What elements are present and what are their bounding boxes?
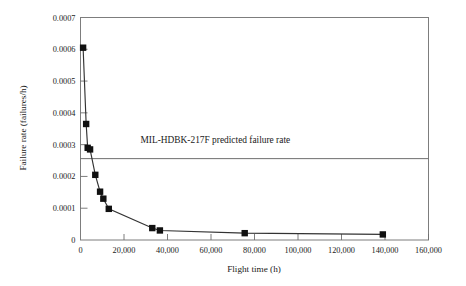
data-point-marker bbox=[83, 121, 89, 127]
data-point-marker bbox=[380, 231, 386, 237]
y-axis-tick-labels: 00.00010.00020.00030.00040.00050.00060.0… bbox=[53, 14, 77, 246]
y-tick-label: 0.0003 bbox=[53, 141, 76, 150]
y-tick-label: 0.0005 bbox=[53, 77, 76, 86]
data-point-marker bbox=[97, 188, 103, 194]
x-axis-tick-labels: 020,00040,00060,00080,000100,000120,0001… bbox=[78, 246, 442, 255]
x-tick-label: 0 bbox=[78, 246, 82, 255]
mil-hdbk-217f-annotation-label: MIL-HDBK-217F predicted failure rate bbox=[140, 135, 290, 145]
y-tick-label: 0.0002 bbox=[53, 172, 76, 181]
data-point-marker bbox=[92, 172, 98, 178]
y-tick-label: 0.0007 bbox=[53, 14, 76, 23]
x-tick-label: 20,000 bbox=[113, 246, 136, 255]
x-tick-label: 120,000 bbox=[328, 246, 355, 255]
data-point-marker bbox=[157, 227, 163, 233]
failure-rate-vs-flight-time-chart: 020,00040,00060,00080,000100,000120,0001… bbox=[0, 0, 466, 286]
y-tick-label: 0 bbox=[71, 236, 75, 245]
data-point-marker bbox=[80, 45, 86, 51]
plot-area-frame bbox=[81, 18, 429, 241]
x-axis-title: Flight time (h) bbox=[227, 264, 281, 274]
x-tick-label: 60,000 bbox=[200, 246, 223, 255]
x-tick-label: 160,000 bbox=[415, 246, 442, 255]
y-tick-label: 0.0004 bbox=[53, 109, 77, 118]
data-point-marker bbox=[242, 230, 248, 236]
data-point-marker bbox=[106, 206, 112, 212]
x-tick-label: 80,000 bbox=[243, 246, 266, 255]
y-tick-label: 0.0006 bbox=[53, 45, 76, 54]
y-tick-label: 0.0001 bbox=[53, 204, 76, 213]
x-tick-label: 40,000 bbox=[156, 246, 179, 255]
figure-container: 020,00040,00060,00080,000100,000120,0001… bbox=[0, 0, 466, 286]
data-point-marker bbox=[149, 225, 155, 231]
data-point-marker bbox=[100, 195, 106, 201]
x-tick-label: 140,000 bbox=[372, 246, 399, 255]
x-tick-label: 100,000 bbox=[285, 246, 312, 255]
data-point-marker bbox=[87, 146, 93, 152]
y-axis-title: Failure rate (failures/h) bbox=[18, 85, 28, 170]
